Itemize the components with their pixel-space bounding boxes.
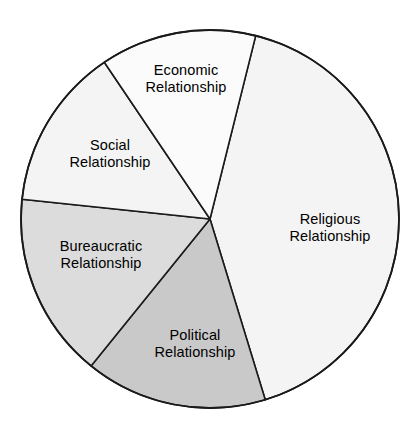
pie-chart-svg xyxy=(0,0,416,436)
pie-slices-group xyxy=(21,30,399,408)
pie-chart: ReligiousRelationshipPoliticalRelationsh… xyxy=(0,0,416,436)
